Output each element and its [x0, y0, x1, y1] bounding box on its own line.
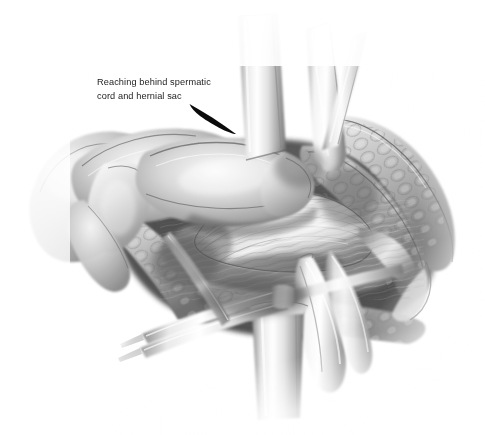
caption-line-1: Reaching behind spermatic	[97, 76, 211, 90]
illustration-canvas	[0, 0, 485, 435]
paper-top-margin	[0, 0, 485, 66]
caption-label: Reaching behind spermatic cord and herni…	[97, 76, 211, 103]
surgical-illustration-figure: Reaching behind spermatic cord and herni…	[0, 0, 485, 435]
caption-line-2: cord and hernial sac	[97, 90, 211, 104]
paper-left-margin	[0, 0, 70, 435]
